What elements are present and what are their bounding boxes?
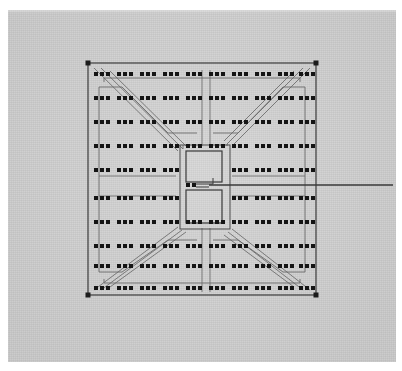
pad-row [94, 72, 315, 76]
pad-row [94, 120, 315, 124]
figure-root: Integrated circuit die pad array layout … [0, 0, 402, 371]
pad-row [94, 244, 315, 248]
pad-row [94, 196, 315, 200]
center-pad-lower [186, 190, 222, 223]
bond-pad-array [94, 72, 315, 290]
technical-drawing [0, 0, 402, 371]
pad-row [94, 96, 315, 100]
pad-row [186, 183, 196, 187]
center-pad-upper [186, 151, 222, 182]
pad-row [94, 286, 315, 290]
pad-row [94, 168, 315, 172]
